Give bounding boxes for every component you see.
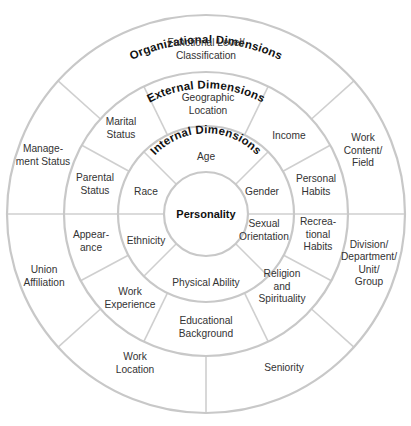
diversity-wheel-diagram: Organizational Dimensions External Dimen… [0, 0, 411, 426]
external-segment-label: PersonalHabits [296, 173, 336, 197]
internal-divider [144, 244, 177, 277]
internal-divider [144, 152, 177, 185]
organizational-divider [58, 309, 100, 347]
external-segment-label: WorkExperience [105, 286, 156, 310]
organizational-segment-label: Seniority [264, 362, 305, 373]
external-divider [81, 255, 129, 280]
external-segment-label: Appear-ance [73, 229, 109, 253]
internal-segment-label: Physical Ability [172, 277, 240, 288]
personality-label: Personality [176, 208, 236, 220]
organizational-segment-label: WorkContent/Field [344, 132, 383, 168]
external-divider [283, 145, 330, 171]
internal-segment-label: Race [134, 186, 158, 197]
organizational-segment-label: UnionAffiliation [23, 264, 64, 288]
internal-segment-label: Age [197, 151, 215, 162]
internal-segment-label: Ethnicity [127, 235, 166, 246]
organizational-segment-label: Functional Level/Classification [167, 37, 244, 61]
organizational-divider [312, 309, 354, 347]
internal-segment-label: Gender [245, 186, 280, 197]
external-segment-label: EducationalBackground [179, 315, 234, 339]
external-segment-label: MaritalStatus [106, 116, 137, 140]
external-divider [82, 145, 129, 171]
internal-divider [236, 152, 269, 185]
external-segment-label: Recrea-tionalHabits [300, 216, 336, 252]
external-segment-label: Income [272, 130, 306, 141]
external-segment-label: ParentalStatus [76, 172, 114, 196]
organizational-divider [58, 81, 100, 119]
organizational-divider [312, 81, 354, 119]
organizational-segment-label: Division/Department/Unit/Group [341, 239, 397, 287]
external-segment-label: ReligionandSpirituality [259, 268, 307, 304]
organizational-segment-label: WorkLocation [116, 351, 155, 375]
external-segment-label: GeographicLocation [182, 92, 235, 116]
organizational-segment-label: Manage-ment Status [16, 143, 70, 167]
